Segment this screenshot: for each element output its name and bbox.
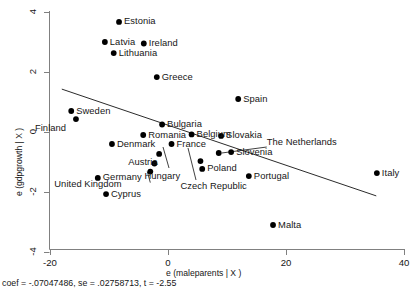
regression-stats-caption: coef = -.07047486, se = .02758713, t = -… [2,278,176,288]
data-point [73,116,79,122]
point-label: United Kingdom [54,179,121,189]
data-point [270,222,276,228]
data-point [216,150,222,156]
point-label: Cyprus [111,189,141,199]
data-point [102,39,108,45]
x-axis-title: e (maleparents | X ) [166,268,241,278]
data-point [246,173,252,179]
point-label: Czech Republic [180,181,246,191]
point-label: Denmark [117,139,155,149]
data-point [235,96,241,102]
point-label: Malta [278,220,301,230]
data-point [68,108,74,114]
y-tick-label: -2 [27,184,38,200]
data-point [141,41,147,47]
data-point [199,166,205,172]
point-label: Estonia [124,16,156,26]
y-tick-label: 2 [27,64,38,80]
point-label: Slovakia [226,130,262,140]
data-point [189,132,195,138]
point-label: Lithuania [119,48,158,58]
data-point [228,149,234,155]
x-tick-label: 40 [384,257,414,268]
point-label: Finland [35,123,66,133]
point-label: Austria [128,157,158,167]
data-point [116,19,122,25]
point-label: Hungary [144,171,180,181]
data-point [374,170,380,176]
data-point [109,141,115,147]
y-axis-title: e (gdpgrowth | X ) [14,128,24,196]
point-label: Sweden [76,106,110,116]
x-tick-label: 0 [148,257,188,268]
point-label: Slovenia [236,147,272,157]
x-tick-label: -20 [30,257,70,268]
data-point [154,74,160,80]
point-label: Italy [382,168,399,178]
x-axis-ticks [51,250,405,256]
data-point [103,191,109,197]
point-label: Portugal [254,171,289,181]
y-tick-label: 4 [27,4,38,20]
x-tick-label: 20 [266,257,306,268]
point-label: Latvia [110,37,135,47]
point-label: The Netherlands [267,137,337,147]
point-label: Spain [243,94,267,104]
point-label: Greece [162,72,193,82]
data-point [198,158,204,164]
point-label: France [177,139,206,149]
point-label: Poland [207,163,237,173]
data-point [111,50,117,56]
data-point [159,122,165,128]
data-point [169,141,175,147]
